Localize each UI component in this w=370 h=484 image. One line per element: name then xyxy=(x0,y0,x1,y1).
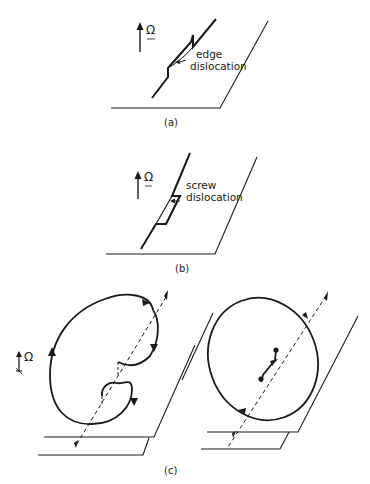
omega-arrow-b xyxy=(135,171,142,199)
dislocation-loop-left-inner xyxy=(118,310,158,365)
axis-line-right xyxy=(228,296,326,447)
dislocation-loop-right xyxy=(191,282,335,435)
omega-symbol-c: Ω xyxy=(24,350,33,364)
omega-symbol-a: Ω xyxy=(146,23,155,37)
inner-segment-right xyxy=(261,350,276,382)
panel-a: Ω edge dislocation (a) xyxy=(111,19,268,128)
loop-arrow-left-4 xyxy=(130,398,138,406)
omega-arrow-c xyxy=(16,351,22,374)
edge-label-line1: edge xyxy=(196,48,222,60)
plane-upper-left xyxy=(44,345,195,437)
plane-lower-left xyxy=(38,438,149,455)
plane-lower-right xyxy=(201,432,289,449)
screw-label-line1: screw xyxy=(186,179,217,191)
caption-b: (b) xyxy=(175,263,189,274)
plane-upper-right xyxy=(207,316,358,432)
omega-arrow-a xyxy=(137,22,144,52)
dislocation-figure: Ω edge dislocation (a) Ω screw dislocati… xyxy=(0,0,370,484)
caption-c: (c) xyxy=(164,465,177,476)
panel-b: Ω screw dislocation (b) xyxy=(106,153,257,274)
caption-a: (a) xyxy=(164,117,178,128)
edge-label-line2: dislocation xyxy=(190,60,247,72)
screw-label-line2: dislocation xyxy=(186,191,243,203)
omega-symbol-b: Ω xyxy=(144,170,153,184)
loop-arrow-left-3 xyxy=(150,344,158,352)
dislocation-loop-left xyxy=(50,295,153,424)
dislocation-line-b xyxy=(141,153,190,249)
screw-step-b xyxy=(156,196,180,224)
axis-line-left xyxy=(75,297,166,447)
panel-c: Ω (c) xyxy=(16,282,358,476)
